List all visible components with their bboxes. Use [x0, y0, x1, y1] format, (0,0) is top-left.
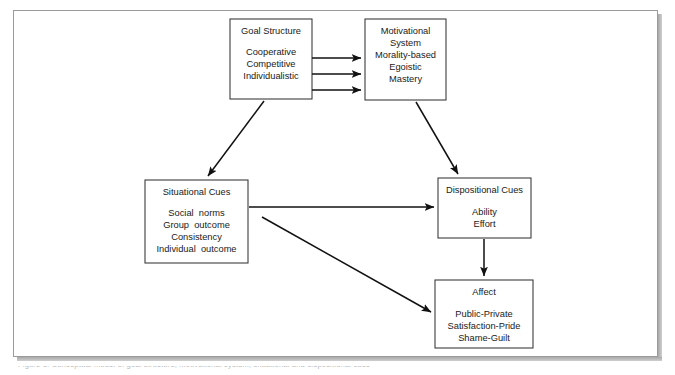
node-situational-cues-title: Situational Cues: [145, 180, 248, 199]
node-motivational-system-item: Morality-based: [365, 50, 446, 62]
node-situational-cues-item: Consistency: [145, 232, 248, 244]
figure-caption-clipped: Figure 1. Conceptual model of goal struc…: [18, 366, 638, 375]
node-motivational-system-item: Egoistic: [365, 62, 446, 74]
figure-canvas: Goal Structure Cooperative Competitive I…: [0, 0, 675, 375]
node-goal-structure-item: Cooperative: [230, 47, 312, 59]
node-affect-item: Satisfaction-Pride: [435, 321, 533, 333]
node-dispositional-cues-item: Effort: [438, 219, 531, 231]
node-dispositional-cues-title: Dispositional Cues: [438, 178, 531, 197]
node-affect-title: Affect: [435, 280, 533, 299]
node-goal-structure: Goal Structure Cooperative Competitive I…: [230, 19, 312, 83]
node-situational-cues-item: Social norms: [145, 208, 248, 220]
node-motivational-system-items: Morality-based Egoistic Mastery: [365, 50, 446, 86]
node-motivational-system-title-line2: System: [365, 38, 446, 50]
figure-frame-shadow-right: [658, 14, 662, 361]
figure-frame-shadow-bottom: [17, 357, 662, 361]
node-goal-structure-title: Goal Structure: [230, 19, 312, 38]
node-situational-cues-item: Individual outcome: [145, 244, 248, 256]
node-affect-item: Shame-Guilt: [435, 333, 533, 345]
node-motivational-system-item: Mastery: [365, 74, 446, 86]
node-goal-structure-item: Individualistic: [230, 71, 312, 83]
node-goal-structure-item: Competitive: [230, 59, 312, 71]
figure-outer-frame: [13, 10, 658, 357]
node-affect: Affect Public-Private Satisfaction-Pride…: [435, 280, 533, 345]
node-affect-items: Public-Private Satisfaction-Pride Shame-…: [435, 309, 533, 345]
node-goal-structure-items: Cooperative Competitive Individualistic: [230, 47, 312, 83]
node-motivational-system-title: Motivational: [365, 19, 446, 38]
figure-caption-text: Figure 1. Conceptual model of goal struc…: [18, 366, 638, 369]
node-dispositional-cues-items: Ability Effort: [438, 207, 531, 231]
node-dispositional-cues: Dispositional Cues Ability Effort: [438, 178, 531, 231]
node-situational-cues-item: Group outcome: [145, 220, 248, 232]
node-motivational-system: Motivational System Morality-based Egois…: [365, 19, 446, 85]
node-situational-cues: Situational Cues Social norms Group outc…: [145, 180, 248, 255]
node-dispositional-cues-item: Ability: [438, 207, 531, 219]
node-affect-item: Public-Private: [435, 309, 533, 321]
node-situational-cues-items: Social norms Group outcome Consistency I…: [145, 208, 248, 256]
